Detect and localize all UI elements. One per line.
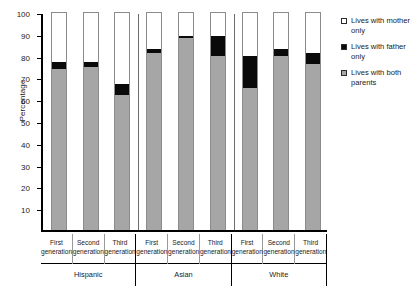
- y-axis-tick: 50: [37, 123, 43, 124]
- segment-both-parents: [306, 64, 320, 230]
- y-axis-tick-label: 60: [21, 97, 30, 106]
- x-axis-label-5: Secondgeneration: [168, 234, 200, 264]
- y-axis-tick: 30: [37, 167, 43, 168]
- x-axis-label-8: Secondgeneration: [263, 234, 295, 264]
- segment-father-only: [179, 36, 193, 38]
- group-separator: [234, 14, 235, 230]
- segment-father-only: [84, 62, 98, 66]
- legend-label-father-only: Lives with father only: [351, 42, 417, 61]
- bar-6: [210, 12, 226, 230]
- segment-both-parents: [179, 38, 193, 230]
- bar-7: [242, 12, 258, 230]
- y-axis-tick-label: 90: [21, 31, 30, 40]
- y-axis-tick: 70: [37, 79, 43, 80]
- segment-both-parents: [147, 53, 161, 230]
- x-axis-group-label-3: White: [232, 264, 327, 286]
- segment-both-parents: [211, 56, 225, 230]
- y-axis-tick: 40: [37, 145, 43, 146]
- y-axis-tick-label: 70: [21, 75, 30, 84]
- legend-label-both-parents: Lives with both parents: [351, 68, 417, 87]
- segment-father-only: [147, 49, 161, 53]
- segment-both-parents: [52, 69, 66, 230]
- y-axis-tick-label: 40: [21, 140, 30, 149]
- legend-item-mother-only: Lives with mother only: [341, 16, 417, 35]
- legend-label-mother-only: Lives with mother only: [351, 16, 417, 35]
- group-separator: [138, 14, 139, 230]
- y-axis-tick-label: 10: [21, 206, 30, 215]
- bar-4: [146, 12, 162, 230]
- segment-both-parents: [115, 95, 129, 230]
- segment-father-only: [243, 56, 257, 89]
- y-axis-tick: 20: [37, 188, 43, 189]
- bar-1: [51, 12, 67, 230]
- bar-9: [305, 12, 321, 230]
- y-axis-tick: 60: [37, 101, 43, 102]
- x-axis-label-2: Secondgeneration: [73, 234, 105, 264]
- y-axis-tick-label: 80: [21, 53, 30, 62]
- plot-inner: 102030405060708090100: [43, 14, 327, 230]
- legend-item-father-only: Lives with father only: [341, 42, 417, 61]
- bar-3: [114, 12, 130, 230]
- y-axis-tick: 10: [37, 210, 43, 211]
- legend-item-both-parents: Lives with both parents: [341, 68, 417, 87]
- y-axis-tick-label: 30: [21, 162, 30, 171]
- x-axis-group-label-2: Asian: [136, 264, 231, 286]
- y-axis-tick: 90: [37, 36, 43, 37]
- segment-father-only: [52, 62, 66, 69]
- y-axis-tick: 80: [37, 58, 43, 59]
- x-axis-label-9: Thirdgeneration: [295, 234, 327, 264]
- bar-5: [178, 12, 194, 230]
- y-axis-tick-label: 50: [21, 119, 30, 128]
- x-axis-label-7: Firstgeneration: [232, 234, 264, 264]
- bar-2: [83, 12, 99, 230]
- x-axis-label-4: Firstgeneration: [136, 234, 168, 264]
- segment-both-parents: [274, 56, 288, 230]
- x-axis-label-3: Thirdgeneration: [105, 234, 137, 264]
- legend-swatch-both-parents: [341, 70, 347, 76]
- segment-both-parents: [243, 88, 257, 230]
- y-axis-tick: 100: [37, 14, 43, 15]
- y-axis-tick-label: 100: [17, 10, 30, 19]
- segment-father-only: [115, 84, 129, 95]
- segment-father-only: [306, 53, 320, 64]
- x-axis-group-band: HispanicAsianWhite: [41, 264, 327, 286]
- segment-both-parents: [84, 67, 98, 231]
- segment-father-only: [211, 36, 225, 56]
- stacked-bar-chart: Percentage 102030405060708090100 Firstge…: [0, 0, 418, 289]
- bar-8: [273, 12, 289, 230]
- x-axis-group-label-1: Hispanic: [41, 264, 136, 286]
- segment-father-only: [274, 49, 288, 56]
- legend-swatch-father-only: [341, 44, 347, 50]
- legend-swatch-mother-only: [341, 18, 347, 24]
- plot-area: 102030405060708090100: [41, 14, 327, 232]
- x-axis-category-band: FirstgenerationSecondgenerationThirdgene…: [41, 234, 327, 264]
- x-axis-label-6: Thirdgeneration: [200, 234, 232, 264]
- chart-legend: Lives with mother onlyLives with father …: [341, 16, 417, 95]
- x-axis-label-1: Firstgeneration: [41, 234, 73, 264]
- y-axis-tick-label: 20: [21, 184, 30, 193]
